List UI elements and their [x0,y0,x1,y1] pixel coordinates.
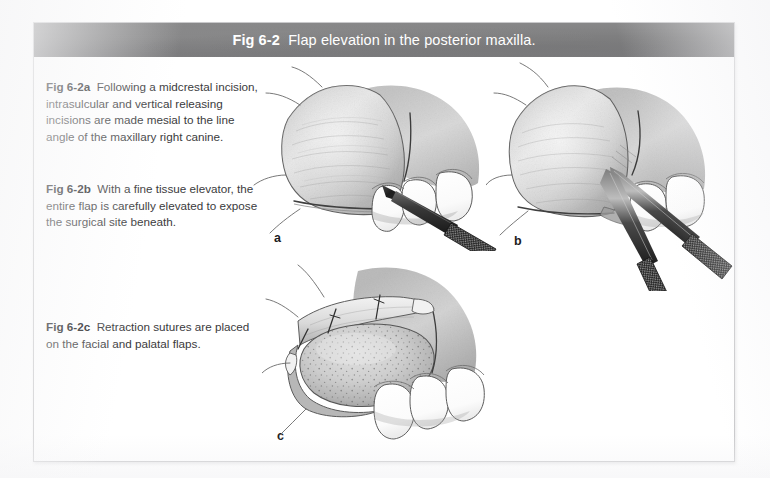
illustration-panel-c [262,245,527,445]
caption-c: Fig 6-2c Retraction sutures are placed o… [46,319,262,352]
figure-title-number: Fig 6-2 [232,32,279,48]
page-background: Fig 6-2 Flap elevation in the posterior … [0,0,770,478]
figure-frame: Fig 6-2 Flap elevation in the posterior … [33,22,735,462]
caption-c-label: Fig 6-2c [46,320,90,333]
illustration-panel-a [252,61,512,251]
figure-title-text: Flap elevation in the posterior maxilla. [288,32,535,48]
caption-a: Fig 6-2a Following a midcrestal incision… [46,79,262,145]
caption-b: Fig 6-2b With a fine tissue elevator, th… [46,181,262,231]
figure-title: Fig 6-2 Flap elevation in the posterior … [232,32,535,48]
figure-header-bar: Fig 6-2 Flap elevation in the posterior … [34,23,734,57]
caption-b-label: Fig 6-2b [46,182,91,195]
caption-a-label: Fig 6-2a [46,80,90,93]
